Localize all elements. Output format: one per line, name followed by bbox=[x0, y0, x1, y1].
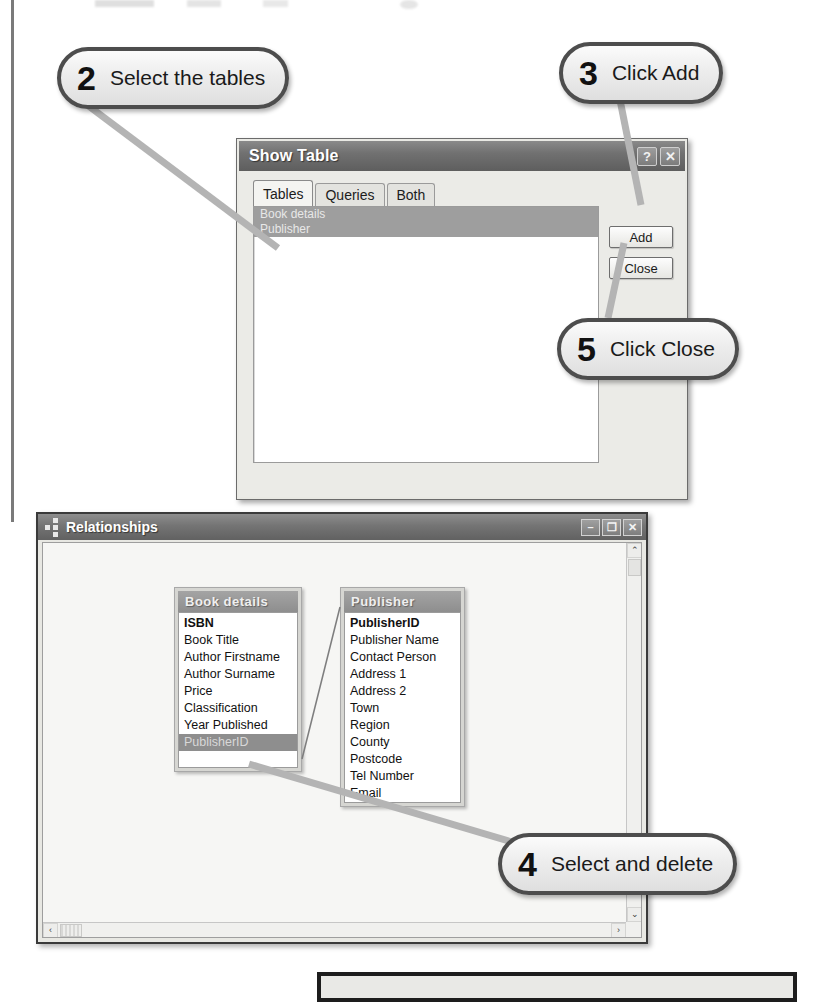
callout-step-5-text: Click Close bbox=[610, 337, 715, 361]
callout-step-4-text: Select and delete bbox=[551, 852, 713, 876]
callout-step-5: 5 Click Close bbox=[557, 318, 739, 380]
callout-step-5-number: 5 bbox=[577, 332, 596, 366]
callout-step-2: 2 Select the tables bbox=[57, 47, 289, 109]
callout-step-3-number: 3 bbox=[579, 56, 598, 90]
callout-step-4: 4 Select and delete bbox=[498, 833, 737, 895]
callout-step-3-text: Click Add bbox=[612, 61, 700, 85]
callout-step-3: 3 Click Add bbox=[559, 42, 723, 104]
callout-step-4-number: 4 bbox=[518, 847, 537, 881]
callout-step-2-number: 2 bbox=[77, 61, 96, 95]
callout-step-2-text: Select the tables bbox=[110, 66, 265, 90]
